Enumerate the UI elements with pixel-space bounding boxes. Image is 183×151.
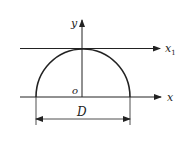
x-axis-label: x xyxy=(167,91,174,104)
x1-axis-label: x1 xyxy=(165,42,176,57)
diagram-canvas: y x1 x o D xyxy=(0,0,183,151)
dimension-label: D xyxy=(76,105,87,119)
semicircle-arc xyxy=(36,49,130,97)
origin-label: o xyxy=(72,85,78,96)
semicircle-diagram: y x1 x o D xyxy=(0,0,183,151)
y-axis-label: y xyxy=(70,17,78,30)
